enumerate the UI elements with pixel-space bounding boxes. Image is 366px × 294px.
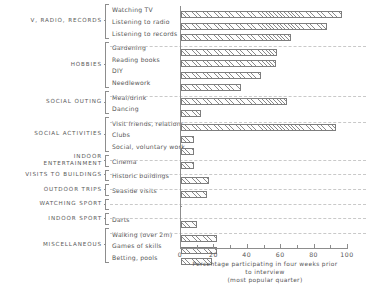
x-tick-major (347, 244, 348, 248)
item-label: Games of skills (112, 242, 162, 250)
item-label: Watching TV (112, 6, 153, 14)
item-label: Dancing (112, 105, 139, 113)
item-label-column: Watching TVListening to radioListening t… (110, 0, 180, 248)
x-axis-caption: Percentage participating in four weeks p… (176, 260, 354, 285)
x-tick-label: 40 (242, 251, 251, 258)
group-brace-tip (104, 64, 106, 65)
group-brace-tip (104, 20, 106, 21)
bar (181, 177, 209, 184)
x-tick-major (247, 244, 248, 248)
x-tick-minor (230, 245, 231, 248)
x-tick-major (280, 244, 281, 248)
x-tick-minor (197, 245, 198, 248)
bar (181, 148, 194, 155)
group-brace-tip (104, 244, 106, 245)
x-tick-label: 20 (209, 251, 218, 258)
group-label: SOCIAL OUTING (46, 98, 102, 106)
group-brace (105, 199, 109, 211)
group-brace-tip (104, 134, 106, 135)
group-label-column: V, RADIO, RECORDSHOBBIESSOCIAL OUTINGSOC… (0, 0, 104, 248)
bar (181, 72, 261, 79)
x-tick-label: 80 (309, 251, 318, 258)
bar (181, 235, 218, 242)
group-brace (105, 170, 109, 182)
group-brace (105, 184, 109, 196)
x-tick-label: 60 (276, 251, 285, 258)
plot-area (180, 6, 366, 248)
bar (181, 60, 276, 67)
x-tick-label: 100 (340, 251, 353, 258)
bar (181, 124, 336, 131)
group-brace-tip (104, 160, 106, 161)
item-label: Clubs (112, 131, 130, 139)
group-brace-tip (104, 218, 106, 219)
group-label: WATCHING SPORT (39, 200, 102, 208)
horizontal-bar-chart: V, RADIO, RECORDSHOBBIESSOCIAL OUTINGSOC… (0, 0, 366, 294)
item-label: Needlework (112, 79, 151, 87)
group-label: INDOOR SPORT (48, 215, 102, 223)
group-brace (105, 42, 109, 88)
bar (181, 11, 343, 18)
x-tick-major (314, 244, 315, 248)
group-brace (105, 213, 109, 225)
bar (181, 191, 208, 198)
group-brace-tip (104, 204, 106, 205)
group-label: MISCELLANEOUS (43, 241, 102, 249)
x-tick-major (180, 244, 181, 248)
group-brace-tip (104, 102, 106, 103)
item-label: Social, voluntary work (112, 143, 185, 151)
group-label: HOBBIES (71, 61, 102, 69)
group-brace (105, 4, 109, 39)
item-label: Listening to records (112, 30, 177, 38)
x-tick-major (213, 244, 214, 248)
group-label: SOCIAL ACTIVITIES (34, 130, 102, 138)
x-tick-minor (297, 245, 298, 248)
group-label: VISITS TO BUILDINGS (25, 171, 102, 179)
x-axis-caption-line-1: Percentage participating in four weeks p… (176, 260, 354, 268)
group-brace (105, 155, 109, 167)
bar (181, 49, 278, 56)
item-label: Reading books (112, 56, 160, 64)
bar (181, 110, 201, 117)
bar (181, 206, 183, 207)
item-label: Listening to radio (112, 18, 170, 26)
bar (181, 23, 328, 30)
item-label: DIY (112, 67, 123, 75)
group-brace (105, 228, 109, 263)
group-brace-tip (104, 189, 106, 190)
x-tick-minor (264, 245, 265, 248)
x-axis-caption-line-3: (most popular quarter) (176, 276, 354, 284)
group-label: OUTDOOR TRIPS (44, 186, 102, 194)
bar (181, 34, 291, 41)
x-axis-caption-line-2: to interview (176, 268, 354, 276)
x-axis-line (180, 248, 348, 249)
bar (181, 221, 198, 228)
bar (181, 98, 288, 105)
bar (181, 84, 241, 91)
group-brace (105, 117, 109, 152)
group-brace-tip (104, 174, 106, 175)
x-tick-minor (330, 245, 331, 248)
bar (181, 136, 194, 143)
item-label: Betting, pools (112, 254, 158, 262)
x-tick-label: 0 (178, 251, 182, 258)
bar (181, 162, 194, 169)
group-brace (105, 91, 109, 114)
x-axis: Percentage participating in four weeks p… (180, 248, 366, 294)
group-label: INDOOR ENTERTAINMENT (44, 153, 102, 168)
group-label: V, RADIO, RECORDS (30, 17, 102, 25)
